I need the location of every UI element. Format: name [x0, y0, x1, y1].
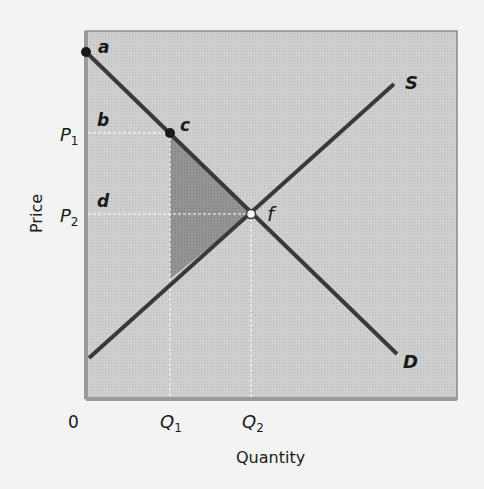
label-d: d: [97, 191, 110, 211]
x-tick-q2: Q2: [242, 411, 264, 435]
x-axis-title: Quantity: [236, 448, 305, 467]
point-c-marker: [165, 128, 175, 138]
demand-label: D: [403, 351, 418, 372]
y-axis-title: Price: [27, 194, 46, 233]
point-f-marker: [247, 210, 256, 219]
label-b: b: [97, 110, 109, 130]
y-tick-p1: P1: [60, 124, 79, 148]
x-tick-q1: Q1: [160, 411, 182, 435]
label-c: c: [180, 115, 190, 135]
supply-label: S: [405, 72, 418, 93]
supply-demand-diagram: a b c d f S D P1 P2 0 Q1 Q2 Quantity Pri…: [0, 0, 484, 489]
label-a: a: [98, 37, 109, 57]
origin-label: 0: [68, 412, 79, 432]
y-tick-p2: P2: [60, 205, 79, 229]
point-a-marker: [81, 47, 91, 57]
